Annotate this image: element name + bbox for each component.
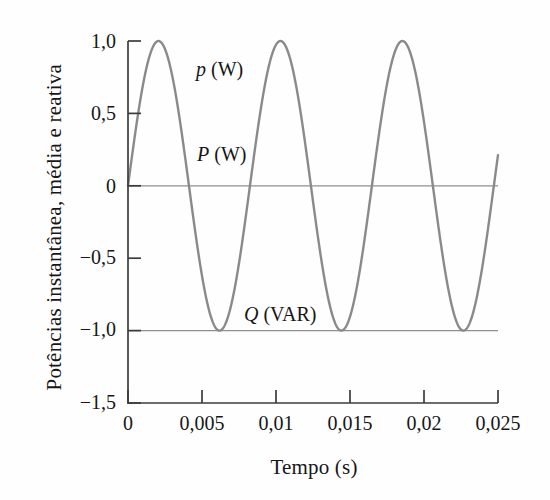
axes <box>128 41 498 404</box>
y-tick-label-neg-1: −1,0 <box>38 318 116 341</box>
series-annotation-P: P (W) <box>197 143 246 166</box>
y-tick-label-neg-1-5: −1,5 <box>38 391 116 414</box>
series-annotation-Q: Q (VAR) <box>244 303 316 326</box>
y-tick-label-0: 0 <box>38 175 116 198</box>
x-axis-title: Tempo (s) <box>128 455 500 480</box>
y-tick-label-0-5: 0,5 <box>38 102 116 125</box>
x-tick-label-0-025: 0,025 <box>453 412 543 435</box>
y-tick-label-1: 1,0 <box>38 30 116 53</box>
series-annotation-p: p (W) <box>196 58 243 81</box>
y-tick-label-neg-0-5: −0,5 <box>38 246 116 269</box>
chart-figure: Potências instantânea, média e reativa T… <box>0 0 550 500</box>
x-axis-ticks <box>128 390 498 403</box>
y-axis-ticks <box>128 41 141 403</box>
